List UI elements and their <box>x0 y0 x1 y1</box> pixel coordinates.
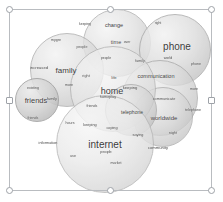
bubble-label-friends-2: friends <box>28 117 39 121</box>
bubble-label-keeping-1: keeping <box>79 23 91 26</box>
handle-top-center[interactable] <box>107 6 114 13</box>
bubble-label-use: use <box>70 155 76 159</box>
bubble-label-more-2: more <box>190 88 198 92</box>
bubble-label-telephone: telephone <box>121 110 143 115</box>
bubble-label-right-2: right <box>82 75 89 79</box>
bubble-label-people-3: people <box>100 151 111 155</box>
handle-bottom-left[interactable] <box>6 187 13 194</box>
handle-top-right[interactable] <box>208 6 215 13</box>
bubble-label-life: life <box>111 76 116 80</box>
bubble-label-saying: saying <box>133 134 144 138</box>
bubble-label-friends-3: friends <box>87 105 98 109</box>
bubble-label-family-3: family <box>47 98 57 102</box>
bubble-label-phone: phone <box>163 42 191 52</box>
bubble-label-right-1: right <box>155 22 162 25</box>
bubble-label-people-1: people <box>77 46 88 50</box>
bubble-label-internet: internet <box>88 140 121 150</box>
bubble-label-night: night <box>169 132 177 136</box>
bubble-label-time: time <box>111 40 121 46</box>
bubble-label-world: world <box>164 57 173 61</box>
bubble-word-cloud[interactable]: internet home phone family friends commu… <box>0 0 223 202</box>
handle-middle-right[interactable] <box>208 97 215 104</box>
bubble-label-information: information <box>39 142 58 146</box>
bubble-label-increased: increased <box>30 66 48 70</box>
bubble-label-family: family <box>56 67 77 75</box>
bubble-label-people-2: people <box>101 57 111 60</box>
bubble-label-market: market <box>111 162 122 166</box>
handle-middle-left[interactable] <box>6 97 13 104</box>
handle-bottom-right[interactable] <box>208 187 215 194</box>
bubble-label-keeping-3: keeping <box>83 124 96 128</box>
bubble-label-community: community <box>148 146 168 150</box>
handle-bottom-center[interactable] <box>107 187 114 194</box>
bubble-label-over: over <box>124 41 131 44</box>
bubble-label-homeplay: homeplay <box>100 96 116 100</box>
bubble-label-hours: hours <box>66 122 75 126</box>
bubble-label-keeping-2: keeping <box>123 86 138 90</box>
bubble-label-worldwide: worldwide <box>151 115 178 121</box>
bubble-label-coping: coping <box>106 127 117 131</box>
bubble-label-friends: friends <box>25 97 48 105</box>
bubble-label-communicate: communicate <box>153 98 176 102</box>
bubble-label-family-2: family <box>135 60 144 64</box>
bubble-label-telephone-2: telephone <box>185 109 201 113</box>
bubble-label-mygre: mygre <box>51 39 61 43</box>
bubble-label-more-1: more <box>65 84 73 88</box>
handle-top-left[interactable] <box>6 6 13 13</box>
bubble-label-existing: existing <box>27 87 39 91</box>
bubble-label-communication: communication <box>138 74 175 80</box>
bubble-label-change: change <box>105 23 123 29</box>
bubble-label-phone-2: phone <box>191 63 201 67</box>
figure-canvas: internet home phone family friends commu… <box>0 0 223 202</box>
